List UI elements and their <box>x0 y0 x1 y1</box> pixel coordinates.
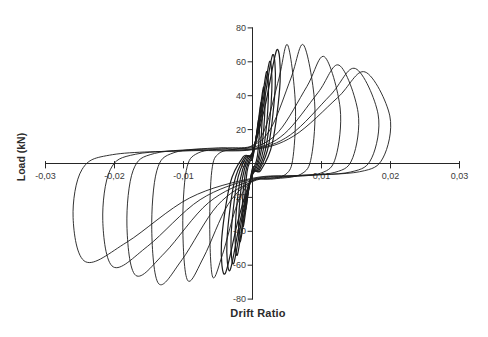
plot-canvas <box>0 0 488 337</box>
hysteresis-chart: Load (kN) Drift Ratio -0,03-0,02-0,010,0… <box>0 0 488 337</box>
